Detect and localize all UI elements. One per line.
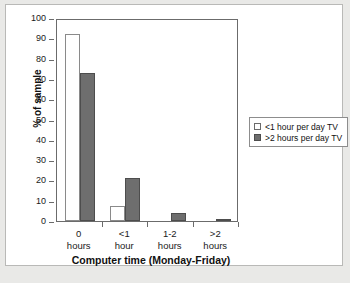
bar (65, 34, 80, 221)
x-axis-group-label: >2hours (193, 228, 239, 252)
y-axis-tick-mark (49, 39, 54, 40)
y-axis-tick-label: 70 (36, 74, 46, 85)
legend-label: <1 hour per day TV (265, 122, 338, 132)
x-axis-title: Computer time (Monday-Friday) (36, 254, 266, 266)
y-axis-tick-label: 80 (36, 54, 46, 65)
x-axis-group-label-line: hours (193, 240, 239, 252)
legend-swatch-icon (254, 123, 261, 130)
y-axis-tick-mark (49, 100, 54, 101)
figure-frame: % of sample Computer time (Monday-Friday… (0, 0, 350, 283)
legend-entry: <1 hour per day TV (254, 121, 342, 132)
x-axis-group-label-line: 1-2 (147, 228, 193, 240)
legend-swatch-icon (254, 134, 261, 141)
x-axis-group-label-line: 0 (56, 228, 102, 240)
x-axis-group-label-line: hours (147, 240, 193, 252)
y-axis-tick-label: 40 (36, 135, 46, 146)
bar (125, 178, 140, 221)
x-axis-tick-mark (238, 222, 239, 227)
legend-label: >2 hours per day TV (265, 133, 342, 143)
y-axis-tick-mark (49, 202, 54, 203)
y-axis-tick-mark (49, 222, 54, 223)
y-axis-tick-label: 20 (36, 175, 46, 186)
x-axis-group-label-line: hour (102, 240, 148, 252)
bar (171, 213, 186, 221)
y-axis-tick-label: 0 (41, 216, 46, 227)
y-axis-tick-label: 10 (36, 196, 46, 207)
bar-chart: % of sample Computer time (Monday-Friday… (6, 5, 344, 267)
figure-caption (12, 275, 350, 283)
y-axis-tick-mark (49, 141, 54, 142)
chart-legend: <1 hour per day TV>2 hours per day TV (249, 117, 348, 147)
x-axis-group-label-line: >2 (193, 228, 239, 240)
y-axis-tick-label: 90 (36, 33, 46, 44)
plot-area (56, 19, 238, 222)
figure-plate: % of sample Computer time (Monday-Friday… (5, 4, 343, 266)
y-axis-tick-mark (49, 80, 54, 81)
x-axis-tick-mark (147, 222, 148, 227)
x-axis-group-label-line: <1 (102, 228, 148, 240)
y-axis-tick-label: 60 (36, 94, 46, 105)
y-axis-tick-mark (49, 181, 54, 182)
x-axis-tick-mark (193, 222, 194, 227)
y-axis-tick-label: 30 (36, 155, 46, 166)
bar (110, 206, 125, 221)
y-axis-tick-mark (49, 19, 54, 20)
x-axis-group-label: 0hours (56, 228, 102, 252)
x-axis-group-label: <1hour (102, 228, 148, 252)
y-axis-tick-label: 100 (31, 13, 46, 24)
x-axis-tick-mark (102, 222, 103, 227)
y-axis-tick-mark (49, 60, 54, 61)
legend-entry: >2 hours per day TV (254, 132, 342, 143)
y-axis-tick-mark (49, 121, 54, 122)
x-axis-group-label-line: hours (56, 240, 102, 252)
x-axis-group-label: 1-2hours (147, 228, 193, 252)
bar (216, 219, 231, 221)
y-axis-tick-mark (49, 161, 54, 162)
bar (80, 73, 95, 221)
y-axis-tick-label: 50 (36, 115, 46, 126)
